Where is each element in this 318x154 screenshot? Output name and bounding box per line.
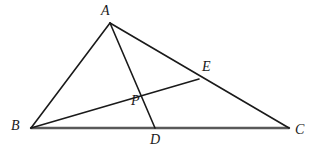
side-ab-line [31,23,110,128]
vertex-label-a: A [101,4,110,18]
side-ac-line [110,23,289,128]
vertex-label-e: E [202,60,211,74]
vertex-label-c: C [295,123,304,137]
vertex-label-p: P [131,94,140,108]
geometry-canvas [0,0,318,154]
vertex-label-b: B [11,119,20,133]
cevian-ad-line [110,23,155,128]
cevian-be-line [31,79,199,128]
geometry-figure: A B C D E P [0,0,318,154]
vertex-label-d: D [150,133,160,147]
